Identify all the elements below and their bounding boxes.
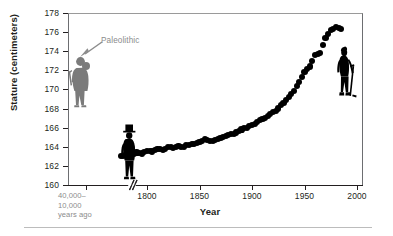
y-tick-label: 170 [0,84,59,94]
modern-golfer-figure [334,46,360,106]
19th-century-man-figure [119,124,141,181]
x-tick [252,185,253,190]
y-tick-label: 160 [0,180,59,190]
data-point [320,42,326,48]
x-tick-label: 1900 [232,191,272,201]
y-tick-label: 172 [0,65,59,75]
x-tick-label: 1850 [180,191,220,201]
x-tick-label-paleolithic: 40,000– 10,000 years ago [58,191,110,220]
paleolithic-annotation-label: Paleolithic [101,36,139,45]
bottom-divider [24,227,372,228]
x-tick [200,185,201,190]
y-tick-label: 176 [0,27,59,37]
y-tick-label: 168 [0,104,59,114]
data-point [309,58,315,64]
data-point [317,50,323,56]
x-tick [357,185,358,190]
y-tick-label: 166 [0,123,59,133]
data-point [291,88,297,94]
stature-over-time-chart: Stature (centimeters) 178176174172170168… [0,0,393,236]
x-tick [305,185,306,190]
data-point [338,26,344,32]
paleo-label-line-3: years ago [58,210,110,220]
x-axis-title: Year [160,206,260,217]
paleo-label-line-2: 10,000 [58,201,110,211]
y-tick-label: 162 [0,161,59,171]
x-tick-label: 2000 [337,191,377,201]
paleo-label-line-1: 40,000– [58,191,110,201]
x-tick-label: 1950 [285,191,325,201]
y-tick-label: 164 [0,142,59,152]
x-tick [86,185,87,190]
paleolithic-hunter-figure [66,55,96,109]
data-point [296,79,302,85]
y-tick-label: 178 [0,8,59,18]
data-point [307,63,313,69]
x-tick [147,185,148,190]
y-tick-label: 174 [0,46,59,56]
x-axis-line [68,185,363,186]
